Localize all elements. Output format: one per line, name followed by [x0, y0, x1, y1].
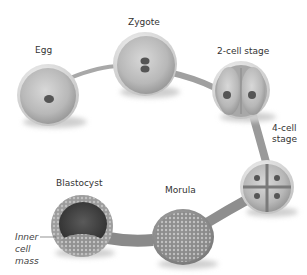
egg-cell	[17, 64, 79, 126]
blastocyst-cell	[51, 195, 113, 257]
two-cell-stage-label: 2-cell stage	[217, 46, 269, 57]
nucleus-icon	[248, 91, 256, 99]
four-cell-stage-label-line2: stage	[272, 134, 297, 145]
inner-cell-mass-label-line1: Inner	[15, 232, 38, 243]
nucleus-icon	[44, 95, 54, 103]
nucleus-icon	[254, 175, 260, 181]
development-diagram: Egg Zygote 2-cell stage 4-cell stage Mor…	[0, 0, 307, 275]
morula-cell	[152, 209, 214, 265]
nucleus-icon	[254, 193, 260, 199]
nucleus-icon	[274, 175, 280, 181]
zygote-cell	[113, 32, 177, 96]
inner-cell-mass-label-line3: mass	[15, 256, 39, 267]
two-cell-stage	[212, 61, 270, 119]
pronucleus-icon	[141, 66, 150, 73]
pronucleus-icon	[141, 58, 150, 65]
four-cell-stage-label-line1: 4-cell	[272, 123, 296, 134]
blastocyst-label: Blastocyst	[56, 178, 102, 189]
morula-label: Morula	[165, 185, 196, 196]
inner-cell-mass-label-line2: cell	[15, 244, 31, 255]
egg-label: Egg	[35, 45, 52, 56]
zygote-label: Zygote	[128, 17, 160, 28]
diagram-graphic	[0, 0, 307, 275]
nucleus-icon	[223, 91, 231, 99]
nucleus-icon	[274, 193, 280, 199]
four-cell-stage	[240, 160, 294, 214]
